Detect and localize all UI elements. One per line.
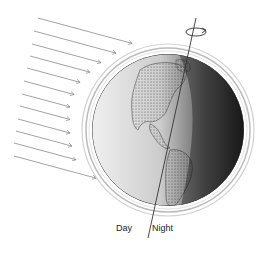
sun-ray bbox=[24, 81, 74, 95]
sun-ray bbox=[14, 156, 96, 178]
rotation-arrow-icon bbox=[186, 28, 206, 36]
sun-ray bbox=[32, 44, 101, 63]
sun-ray bbox=[27, 68, 80, 82]
sun-ray bbox=[22, 94, 70, 107]
sun-ray bbox=[20, 106, 70, 120]
day-label: Day bbox=[116, 223, 133, 233]
sun-ray bbox=[18, 119, 70, 133]
night-label: Night bbox=[152, 223, 174, 233]
sun-ray bbox=[30, 56, 90, 72]
sun-ray bbox=[14, 143, 76, 160]
sun-ray bbox=[38, 18, 132, 43]
earth-diagram: Day Night bbox=[0, 0, 256, 253]
sun-ray bbox=[16, 131, 72, 146]
sun-ray bbox=[34, 31, 116, 53]
